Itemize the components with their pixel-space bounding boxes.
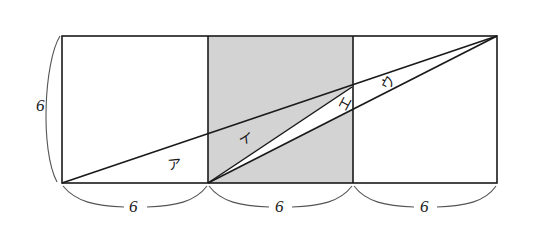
figure-canvas bbox=[0, 0, 534, 234]
region-label-a: ア bbox=[166, 156, 181, 171]
brace-left-height bbox=[46, 36, 60, 182]
brace-bottom-third-a bbox=[354, 186, 414, 207]
dimension-label-bottom-first: 6 bbox=[129, 198, 138, 215]
brace-bottom-second-b bbox=[292, 186, 352, 207]
dimension-label-bottom-second: 6 bbox=[275, 198, 284, 215]
dimension-label-left-height: 6 bbox=[36, 97, 45, 114]
brace-bottom-first-a bbox=[63, 186, 124, 207]
dimension-label-bottom-third: 6 bbox=[420, 198, 429, 215]
brace-bottom-second-a bbox=[209, 186, 269, 207]
region-label-b: イ bbox=[237, 130, 252, 145]
brace-bottom-first-b bbox=[147, 186, 207, 207]
geometry-figure: 6 6 6 6 ア イ ウ エ bbox=[0, 0, 534, 234]
brace-bottom-third-b bbox=[437, 186, 496, 207]
